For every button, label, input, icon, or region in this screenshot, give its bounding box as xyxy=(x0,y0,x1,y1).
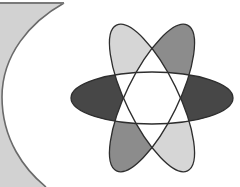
crescent-shape xyxy=(0,3,64,187)
diagram-canvas xyxy=(0,0,240,187)
atom-symbol xyxy=(0,0,240,187)
